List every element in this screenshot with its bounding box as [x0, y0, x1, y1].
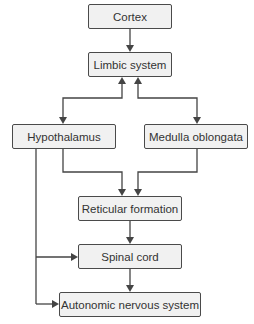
node-label: Autonomic nervous system — [61, 299, 199, 311]
edge-hypothalamus-ans — [36, 300, 59, 308]
node-hypothalamus: Hypothalamus — [12, 124, 116, 149]
connector-layer — [0, 0, 254, 324]
node-limbic-system: Limbic system — [88, 52, 172, 77]
edge-cortex-limbic — [126, 29, 134, 52]
edge-limbic-medulla — [134, 77, 201, 124]
edge-reticular-spinal — [126, 221, 134, 244]
node-label: Reticular formation — [82, 203, 179, 215]
edge-limbic-hypothalamus — [59, 77, 126, 124]
node-reticular-formation: Reticular formation — [78, 196, 182, 221]
node-label: Hypothalamus — [27, 131, 101, 143]
node-label: Medulla oblongata — [149, 131, 243, 143]
node-cortex: Cortex — [88, 4, 172, 29]
node-autonomic-nervous-system: Autonomic nervous system — [59, 292, 201, 317]
node-label: Cortex — [113, 11, 147, 23]
node-medulla-oblongata: Medulla oblongata — [144, 124, 248, 149]
edge-spinal-ans — [126, 269, 134, 292]
edge-hypothalamus-reticular — [63, 149, 126, 196]
node-label: Limbic system — [94, 59, 167, 71]
edge-medulla-reticular — [134, 149, 197, 196]
node-label: Spinal cord — [101, 251, 159, 263]
node-spinal-cord: Spinal cord — [78, 244, 182, 269]
